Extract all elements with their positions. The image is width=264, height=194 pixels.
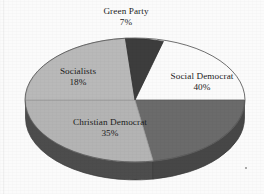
slice-label-green-party-name: Green Party	[70, 6, 182, 17]
slice-label-christian-democrat-value: 35%	[43, 128, 177, 139]
pie-chart-figure: Green Party 7% Social Democrat 40% Socia…	[0, 0, 264, 194]
slice-label-christian-democrat-name: Christian Democrat	[43, 117, 177, 128]
slice-label-socialists-value: 18%	[35, 77, 121, 88]
pie-chart-graphic	[0, 0, 264, 194]
slice-label-christian-democrat: Christian Democrat 35%	[43, 117, 177, 139]
slice-label-green-party-value: 7%	[70, 17, 182, 28]
scan-speck-artifact	[245, 167, 247, 169]
slice-label-social-democrat: Social Democrat 40%	[149, 71, 255, 93]
slice-label-social-democrat-value: 40%	[149, 82, 255, 93]
slice-label-green-party: Green Party 7%	[70, 6, 182, 28]
slice-label-social-democrat-name: Social Democrat	[149, 71, 255, 82]
slice-label-socialists-name: Socialists	[35, 66, 121, 77]
pie-top-face	[25, 38, 245, 162]
slice-label-socialists: Socialists 18%	[35, 66, 121, 88]
